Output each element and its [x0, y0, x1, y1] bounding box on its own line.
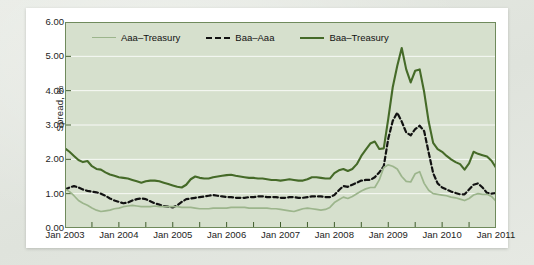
- y-axis-ticks: 6.005.004.003.002.001.000.00: [26, 8, 64, 248]
- legend-item-baa-aaa: Baa–Aaa: [206, 32, 274, 43]
- legend-item-baa-treasury: Baa–Treasury: [300, 32, 388, 43]
- y-tick-label: 1.00: [30, 189, 64, 199]
- x-tick-label: Jan 2009: [369, 229, 408, 240]
- figure-card: Spread, % 6.005.004.003.002.001.000.00 J…: [26, 8, 508, 248]
- spread-chart: Spread, % 6.005.004.003.002.001.000.00 J…: [26, 8, 508, 248]
- x-tick-label: Jan 2007: [261, 229, 300, 240]
- x-tick-label: Jan 2005: [153, 229, 192, 240]
- legend-label: Baa–Aaa: [235, 32, 274, 43]
- plot-svg: [65, 22, 496, 228]
- x-tick-label: Jan 2003: [45, 229, 84, 240]
- y-tick-label: 3.00: [30, 120, 64, 130]
- y-tick-label: 4.00: [30, 86, 64, 96]
- legend-item-aaa-treasury: Aaa–Treasury: [92, 32, 180, 43]
- legend-swatch-line-icon: [300, 37, 324, 39]
- x-tick-label: Jan 2006: [207, 229, 246, 240]
- plot-area: [65, 22, 496, 228]
- y-tick-label: 6.00: [30, 17, 64, 27]
- x-tick-label: Jan 2011: [477, 229, 515, 240]
- figure-page: Spread, % 6.005.004.003.002.001.000.00 J…: [0, 0, 534, 265]
- y-tick-label: 2.00: [30, 154, 64, 164]
- x-tick-label: Jan 2010: [423, 229, 462, 240]
- y-tick-label: 5.00: [30, 51, 64, 61]
- legend-swatch-dashed-icon: [206, 37, 230, 39]
- x-axis-ticks: Jan 2003Jan 2004Jan 2005Jan 2006Jan 2007…: [26, 229, 508, 247]
- chart-legend: Aaa–Treasury Baa–Aaa Baa–Treasury: [92, 32, 389, 43]
- x-tick-label: Jan 2008: [315, 229, 354, 240]
- x-tick-label: Jan 2004: [99, 229, 138, 240]
- legend-label: Baa–Treasury: [329, 32, 388, 43]
- legend-swatch-line-icon: [92, 37, 116, 38]
- legend-label: Aaa–Treasury: [121, 32, 180, 43]
